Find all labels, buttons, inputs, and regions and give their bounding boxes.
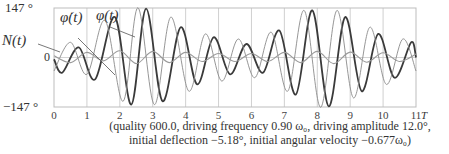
caption-line-1: (quality 600.0, driving frequency 0.90 ω…: [100, 120, 440, 133]
x-tick-label: 1: [84, 110, 90, 121]
y-axis-zero-label: 0: [44, 51, 50, 63]
y-axis-min-label: −147 °: [3, 101, 38, 113]
phi-label: φ(t): [96, 8, 118, 23]
caption-line-2: initial deflection −5.18°, initial angul…: [100, 134, 440, 147]
y-axis-max-label: 147 °: [5, 2, 33, 14]
phi-leader-line: [110, 27, 135, 37]
n-label: N(t): [2, 33, 26, 48]
phi-dot-label: φ̇(t): [60, 10, 82, 25]
x-tick-label: 0: [51, 110, 57, 121]
